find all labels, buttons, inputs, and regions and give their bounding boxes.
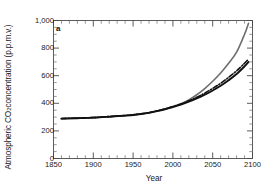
x-tick-label: 1850 bbox=[34, 161, 74, 169]
x-tick-label: 2100 bbox=[233, 161, 273, 169]
x-tick-label: 1900 bbox=[73, 161, 113, 169]
x-axis-title: Year bbox=[48, 174, 260, 183]
panel-label: a bbox=[56, 24, 60, 33]
x-tick-label: 2050 bbox=[193, 161, 233, 169]
x-axis-tick-labels: 185019001950200020502100 bbox=[0, 0, 273, 194]
x-tick-label: 1950 bbox=[113, 161, 153, 169]
x-tick-label: 2000 bbox=[153, 161, 193, 169]
figure-panel-a: Atmospheric CO2 concentration (p.p.m.v.)… bbox=[0, 0, 273, 194]
